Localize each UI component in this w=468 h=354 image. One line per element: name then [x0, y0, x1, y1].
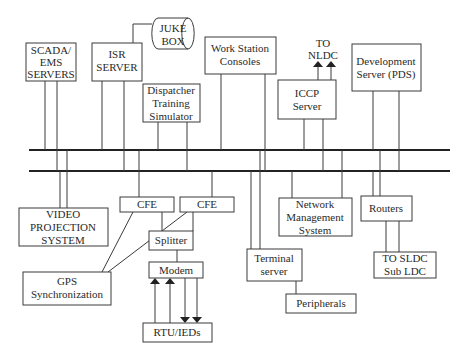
juke-box-storage-node: JUKE BOX — [152, 18, 194, 49]
cfe-node-1: CFE — [120, 197, 174, 212]
svg-text:Network: Network — [296, 198, 335, 210]
svg-text:VIDEO: VIDEO — [46, 208, 80, 220]
svg-text:CFE: CFE — [137, 198, 157, 210]
svg-text:RTU/IEDs: RTU/IEDs — [153, 326, 200, 338]
svg-text:System: System — [299, 224, 332, 236]
cfe-node-2: CFE — [180, 197, 234, 212]
rtu-ieds-node: RTU/IEDs — [143, 323, 212, 342]
svg-text:SYSTEM: SYSTEM — [41, 234, 85, 246]
svg-text:ICCP: ICCP — [295, 87, 319, 99]
svg-text:server: server — [261, 265, 288, 277]
arrow-up-icon — [313, 61, 323, 67]
arrow-up-icon — [150, 278, 160, 284]
svg-text:Training: Training — [152, 97, 190, 109]
svg-text:Simulator: Simulator — [149, 110, 193, 122]
svg-text:JUKE: JUKE — [160, 22, 187, 34]
svg-text:Server (PDS): Server (PDS) — [357, 68, 416, 81]
svg-text:SCADA/: SCADA/ — [31, 44, 72, 56]
arrow-up-icon — [326, 61, 336, 67]
svg-text:PROJECTION: PROJECTION — [30, 221, 96, 233]
svg-text:Server: Server — [293, 100, 322, 112]
svg-text:EMS: EMS — [40, 56, 63, 68]
arrow-down-icon — [192, 317, 202, 323]
arrow-up-icon — [165, 278, 175, 284]
svg-text:Routers: Routers — [369, 202, 403, 214]
modem-node: Modem — [149, 262, 203, 278]
gps-synchronization-node: GPS Synchronization — [23, 272, 111, 305]
to-sldc-node: TO SLDC Sub LDC — [374, 252, 436, 278]
svg-text:Dispatcher: Dispatcher — [147, 84, 195, 96]
svg-text:Splitter: Splitter — [155, 234, 188, 246]
development-server-node: Development Server (PDS) — [352, 44, 421, 91]
to-nldc-label: TO NLDC — [308, 37, 338, 61]
work-station-consoles-node: Work Station Consoles — [205, 37, 276, 74]
isr-server-node: ISR SERVER — [92, 43, 142, 81]
svg-text:Peripherals: Peripherals — [296, 297, 345, 309]
svg-text:TO: TO — [316, 37, 331, 49]
svg-text:Sub LDC: Sub LDC — [384, 265, 426, 277]
dispatcher-training-simulator-node: Dispatcher Training Simulator — [143, 84, 200, 122]
svg-text:NLDC: NLDC — [308, 49, 338, 61]
splitter-node: Splitter — [149, 231, 193, 250]
terminal-server-node: Terminal server — [247, 249, 302, 281]
svg-text:Terminal: Terminal — [254, 252, 294, 264]
svg-text:GPS: GPS — [57, 275, 77, 287]
system-architecture-diagram: SCADA/ EMS SERVERS ISR SERVER JUKE BOX D… — [0, 0, 468, 354]
svg-text:Consoles: Consoles — [220, 55, 260, 67]
arrow-down-icon — [180, 317, 190, 323]
scada-ems-servers-node: SCADA/ EMS SERVERS — [26, 43, 76, 81]
svg-text:SERVER: SERVER — [96, 61, 138, 73]
svg-text:Management: Management — [286, 211, 343, 223]
svg-text:Development: Development — [356, 55, 415, 67]
routers-node: Routers — [361, 196, 412, 221]
svg-text:BOX: BOX — [161, 35, 184, 47]
peripherals-node: Peripherals — [286, 294, 356, 313]
svg-text:CFE: CFE — [197, 198, 217, 210]
network-management-system-node: Network Management System — [279, 198, 352, 236]
svg-text:TO SLDC: TO SLDC — [382, 252, 427, 264]
svg-text:Synchronization: Synchronization — [31, 288, 104, 300]
svg-text:SERVERS: SERVERS — [27, 68, 74, 80]
iccp-server-node: ICCP Server — [278, 80, 336, 119]
video-projection-system-node: VIDEO PROJECTION SYSTEM — [19, 208, 108, 246]
svg-text:ISR: ISR — [108, 48, 126, 60]
svg-text:Modem: Modem — [159, 264, 194, 276]
svg-text:Work Station: Work Station — [211, 42, 270, 54]
